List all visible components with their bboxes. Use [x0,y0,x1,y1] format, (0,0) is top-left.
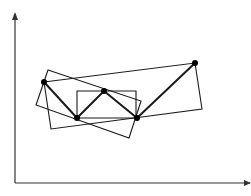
vertex-dot-p1 [41,79,47,85]
vertex-dot-p3 [101,88,107,94]
vertex-dot-p2 [74,115,80,121]
vertex-dot-p5 [192,60,198,66]
axes [12,12,251,186]
small-tilted-box [36,70,141,138]
y-axis-arrowhead-icon [12,12,18,20]
large-tilted-box [44,63,202,129]
vertex-dot-p4 [134,115,140,121]
axis-aligned-box [77,91,136,118]
x-axis-arrowhead-icon [244,180,251,186]
diagram-canvas [0,0,251,196]
geometry-diagram [0,0,251,196]
